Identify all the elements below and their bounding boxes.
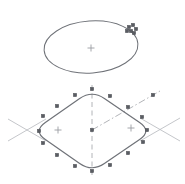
grip-point-cluster[interactable] [134, 27, 137, 30]
grip-point[interactable] [90, 169, 93, 172]
grip-point[interactable] [73, 164, 76, 167]
grip-point[interactable] [90, 128, 93, 131]
grip-point[interactable] [108, 163, 111, 166]
grip-point[interactable] [141, 140, 144, 143]
grip-point[interactable] [145, 128, 148, 131]
grip-point-cluster[interactable] [131, 23, 134, 26]
grip-point[interactable] [73, 93, 76, 96]
grip-point[interactable] [90, 87, 93, 90]
grip-point[interactable] [126, 105, 129, 108]
grip-point[interactable] [55, 104, 58, 107]
grip-point[interactable] [41, 114, 44, 117]
grip-point-cluster[interactable] [132, 31, 135, 34]
grip-point-detached[interactable] [151, 93, 154, 96]
canvas-background [0, 0, 185, 184]
grip-point[interactable] [37, 129, 40, 132]
cad-canvas[interactable] [0, 0, 185, 184]
grip-point-cluster[interactable] [125, 29, 128, 32]
grip-point[interactable] [108, 94, 111, 97]
cad-drawing-area[interactable] [0, 0, 185, 184]
grip-point[interactable] [140, 115, 143, 118]
grip-point[interactable] [55, 153, 58, 156]
grip-point[interactable] [41, 141, 44, 144]
grip-point[interactable] [126, 151, 129, 154]
grip-point-cluster[interactable] [127, 25, 130, 28]
